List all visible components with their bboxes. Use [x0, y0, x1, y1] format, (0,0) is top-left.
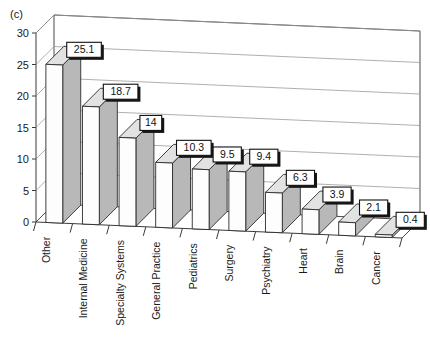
data-label-text-2: 14	[145, 116, 157, 128]
data-label-text-0: 25.1	[74, 43, 95, 55]
x-tick-1	[70, 224, 73, 233]
x-tick-10	[400, 238, 403, 247]
data-label-text-8: 2.1	[366, 201, 381, 213]
category-label-8: Brain	[333, 249, 345, 274]
data-label-6: 6.3	[286, 170, 317, 188]
bar-chart-3d: 051015202530 25.118.71410.39.59.46.33.92…	[0, 0, 430, 344]
category-label-5: Surgery	[223, 244, 235, 282]
bar-front-3	[156, 162, 173, 228]
bar-front-5	[229, 171, 246, 231]
bar-front-4	[192, 169, 209, 230]
x-tick-7	[290, 233, 293, 242]
data-label-text-7: 3.9	[330, 188, 345, 200]
data-label-text-9: 0.4	[403, 213, 418, 225]
bar-front-6	[265, 192, 282, 232]
x-tick-5	[217, 230, 220, 239]
data-label-1: 18.7	[103, 84, 140, 102]
x-tick-6	[253, 232, 256, 241]
x-tick-4	[180, 228, 183, 237]
y-axis: 051015202530	[17, 27, 36, 228]
x-tick-2	[107, 225, 110, 234]
bar-side-0	[63, 47, 81, 223]
data-label-0: 25.1	[67, 42, 104, 60]
data-label-5: 9.4	[250, 149, 281, 167]
data-label-text-1: 18.7	[110, 85, 131, 97]
x-tick-9	[363, 236, 366, 245]
data-label-8: 2.1	[360, 200, 391, 218]
x-tick-0	[34, 222, 37, 231]
x-tick-3	[143, 227, 146, 236]
bar-1	[82, 88, 117, 225]
bar-2	[119, 119, 154, 226]
y-tick-label-10: 10	[17, 153, 29, 165]
y-tick-label-15: 15	[17, 122, 29, 134]
y-tick-label-0: 0	[23, 216, 29, 228]
category-label-2: Specialty Systems	[114, 240, 126, 326]
chart-container: 051015202530 25.118.71410.39.59.46.33.92…	[0, 0, 430, 344]
data-label-text-3: 10.3	[184, 141, 205, 153]
data-label-text-5: 9.4	[257, 150, 272, 162]
y-tick-label-5: 5	[23, 185, 29, 197]
bar-front-0	[46, 64, 63, 223]
bar-front-7	[302, 209, 319, 234]
bar-front-8	[339, 222, 356, 236]
bar-front-2	[119, 137, 136, 226]
category-label-7: Heart	[297, 248, 309, 274]
data-label-2: 14	[140, 115, 164, 132]
bar-side-1	[99, 89, 117, 225]
data-label-3: 10.3	[177, 140, 214, 158]
category-label-1: Internal Medicine	[77, 238, 89, 318]
data-label-4: 9.5	[213, 147, 244, 165]
y-tick-label-25: 25	[17, 59, 29, 71]
data-label-text-6: 6.3	[293, 171, 308, 183]
bar-0	[46, 46, 81, 223]
y-tick-label-30: 30	[17, 27, 29, 39]
panel-tag: (c)	[10, 8, 23, 20]
data-label-9: 0.4	[396, 212, 427, 230]
category-label-3: General Practice	[150, 241, 162, 319]
category-label-9: Cancer	[370, 251, 382, 285]
category-label-0: Other	[40, 236, 52, 263]
bar-front-1	[82, 106, 99, 225]
category-label-4: Pediatrics	[187, 243, 199, 289]
category-label-6: Psychiatry	[260, 246, 272, 295]
data-label-text-4: 9.5	[220, 148, 235, 160]
y-tick-label-20: 20	[17, 90, 29, 102]
x-tick-8	[326, 235, 329, 244]
data-label-7: 3.9	[323, 187, 354, 205]
category-labels-group: OtherInternal MedicineSpecialty SystemsG…	[40, 236, 381, 325]
bar-front-9	[375, 234, 392, 237]
